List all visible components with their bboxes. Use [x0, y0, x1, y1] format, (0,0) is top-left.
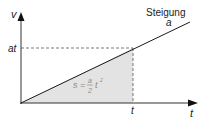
formula-exponent: 2	[99, 77, 103, 83]
formula-denominator: 2	[87, 87, 92, 94]
x-axis-label: t	[190, 107, 194, 119]
velocity-time-diagram: v t at t Steigung a s = a 2 t 2	[0, 0, 202, 120]
x-tick-label: t	[131, 105, 135, 116]
y-tick-label: at	[8, 43, 18, 54]
y-axis-label: v	[11, 8, 18, 20]
y-axis-arrow-icon	[18, 12, 25, 21]
formula-numerator: a	[88, 77, 92, 84]
formula-lhs: s =	[73, 80, 85, 90]
x-axis-arrow-icon	[188, 100, 198, 107]
slope-symbol: a	[166, 17, 172, 28]
